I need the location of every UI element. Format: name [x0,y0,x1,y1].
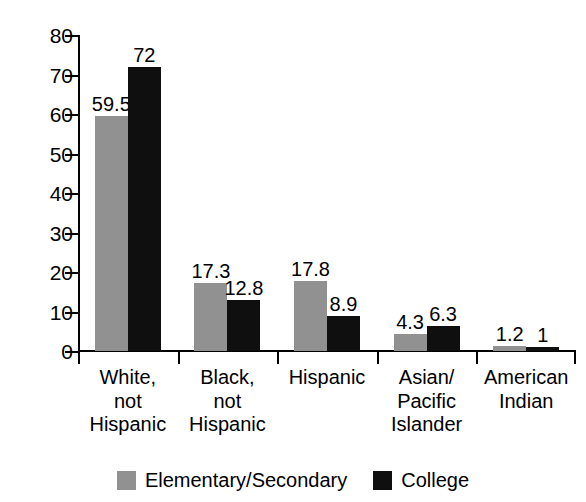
y-axis-tick-label: 40 [50,183,73,204]
bar-college: 6.3 [427,326,460,351]
bar-chart: 0102030405060708059.57217.312.817.88.94.… [0,0,586,502]
bar-college: 12.8 [227,300,260,351]
bar-value-label: 8.9 [330,294,358,314]
x-axis-category-label: American Indian [476,366,576,413]
y-axis-tick-label: 80 [50,25,73,46]
legend-swatch-icon [117,471,136,490]
x-axis-group-tick [277,352,279,364]
x-axis-group-tick [178,352,180,364]
y-axis-tick-label: 50 [50,143,73,164]
bar-elementary-secondary: 17.8 [294,281,327,351]
bar-elementary-secondary: 4.3 [394,334,427,351]
x-axis-group-tick [574,352,576,364]
x-axis-group-tick [78,352,80,364]
y-axis-tick-label: 20 [50,262,73,283]
bar-college: 72 [128,67,161,351]
x-axis-group-tick [476,352,478,364]
x-axis-group-tick [377,352,379,364]
y-axis-tick-label: 70 [50,64,73,85]
legend-item: College [373,470,469,490]
legend-swatch-icon [373,471,392,490]
bar-value-label: 4.3 [396,312,424,332]
plot-area: 0102030405060708059.57217.312.817.88.94.… [78,35,576,351]
bar-value-label: 1.2 [496,324,524,344]
y-axis-tick-label: 10 [50,301,73,322]
y-axis-tick-label: 60 [50,104,73,125]
x-axis-category-label: White, not Hispanic [78,366,178,437]
legend-label: Elementary/Secondary [145,470,347,490]
bar-college: 1 [526,347,559,351]
bar-elementary-secondary: 17.3 [194,283,227,351]
y-axis-tick-label: 0 [61,341,73,362]
bar-value-label: 6.3 [429,304,457,324]
x-axis-category-label: Black, not Hispanic [178,366,278,437]
x-axis-category-label: Hispanic [277,366,377,390]
bar-value-label: 1 [537,325,548,345]
bar-value-label: 12.8 [224,278,263,298]
legend-label: College [401,470,469,490]
legend-item: Elementary/Secondary [117,470,347,490]
y-axis-tick-label: 30 [50,222,73,243]
x-axis-category-label: Asian/ Pacific Islander [377,366,477,437]
bar-elementary-secondary: 1.2 [493,346,526,351]
bar-elementary-secondary: 59.5 [95,116,128,351]
bar-college: 8.9 [327,316,360,351]
bar-value-label: 17.8 [291,259,330,279]
bar-value-label: 59.5 [92,94,131,114]
chart-legend: Elementary/SecondaryCollege [0,470,586,490]
bar-value-label: 72 [133,45,155,65]
